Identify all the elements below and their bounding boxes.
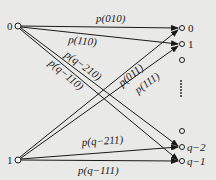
input-label-1: 1: [7, 154, 13, 166]
output-node-q3: [180, 129, 185, 134]
edge-label-p010: p(010): [95, 12, 126, 25]
output-node-2: [180, 58, 185, 63]
output-node-1: [180, 42, 185, 47]
output-node-q2: [180, 145, 185, 150]
channel-diagram: 0 1 0 1 q−2 q−1 p(010) p(110) p(q−210) p…: [0, 0, 216, 180]
input-node-0: [15, 23, 21, 29]
output-label-0: 0: [188, 22, 194, 34]
edge-0-to-1: [21, 27, 178, 44]
input-label-0: 0: [7, 20, 13, 32]
output-label-1: 1: [188, 38, 194, 50]
edge-label-pq111: p(q−111): [77, 164, 119, 177]
edge-1-to-q1: [21, 160, 178, 161]
output-label-q1: q−1: [187, 155, 205, 167]
input-node-1: [15, 157, 21, 163]
output-node-0: [180, 26, 185, 31]
edge-1-to-q2: [21, 147, 178, 159]
edge-label-p110: p(110): [67, 33, 98, 49]
edge-label-pq211: p(q−211): [80, 133, 124, 149]
vertical-ellipsis-icon: [180, 80, 182, 97]
output-node-q1: [180, 159, 185, 164]
edge-0-to-q2: [21, 28, 178, 146]
output-label-q2: q−2: [187, 141, 206, 153]
edge-0-to-0: [21, 26, 178, 28]
